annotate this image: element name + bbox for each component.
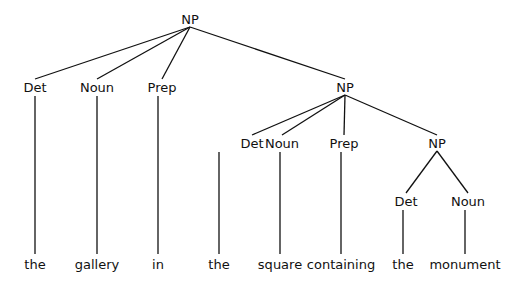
tree-node-np: NP xyxy=(428,136,446,151)
tree-edge xyxy=(344,95,345,135)
tree-edge xyxy=(252,95,345,135)
leaf-word: the xyxy=(24,257,45,272)
tree-node-noun: Noun xyxy=(265,136,299,151)
tree-node-det: Det xyxy=(394,194,417,209)
tree-node-det: Det xyxy=(23,80,46,95)
tree-node-prep: Prep xyxy=(330,136,359,151)
tree-node-prep: Prep xyxy=(148,80,177,95)
leaf-word: monument xyxy=(429,257,500,272)
tree-edge xyxy=(345,95,437,135)
tree-node-noun: Noun xyxy=(451,194,485,209)
leaf-word: containing xyxy=(307,257,375,272)
tree-edge xyxy=(437,151,468,193)
tree-node-det: Det xyxy=(240,136,263,151)
leaf-word: the xyxy=(208,257,229,272)
leaf-word: in xyxy=(152,257,164,272)
tree-node-np: NP xyxy=(336,80,354,95)
tree-edge xyxy=(406,151,437,193)
leaf-word: gallery xyxy=(75,257,119,272)
tree-node-np: NP xyxy=(181,12,199,27)
tree-edge xyxy=(190,27,345,79)
parse-tree-diagram: NPDettheNoungalleryPrepinNPDettheNounsqu… xyxy=(0,0,526,283)
leaf-word: the xyxy=(392,257,413,272)
leaf-word: square xyxy=(258,257,302,272)
tree-node-noun: Noun xyxy=(80,80,114,95)
tree-edge xyxy=(282,95,345,135)
